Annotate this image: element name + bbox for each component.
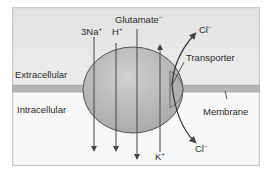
transporter-diagram (12, 7, 260, 166)
transporter-label: Transporter (186, 53, 235, 63)
diagram-frame: Extracellular Intracellular Transporter … (12, 7, 260, 166)
proton-label: H+ (112, 27, 122, 37)
transporter-body (83, 47, 183, 133)
sodium-label: 3Na+ (81, 27, 102, 37)
chloride-in-label: Cl− (195, 144, 208, 154)
intracellular-label: Intracellular (17, 105, 66, 115)
membrane-label: Membrane (203, 107, 248, 117)
chloride-out-label: Cl− (199, 25, 212, 35)
potassium-label: K+ (155, 152, 165, 162)
extracellular-label: Extracellular (15, 70, 67, 80)
glutamate-label: Glutamate− (115, 15, 162, 25)
